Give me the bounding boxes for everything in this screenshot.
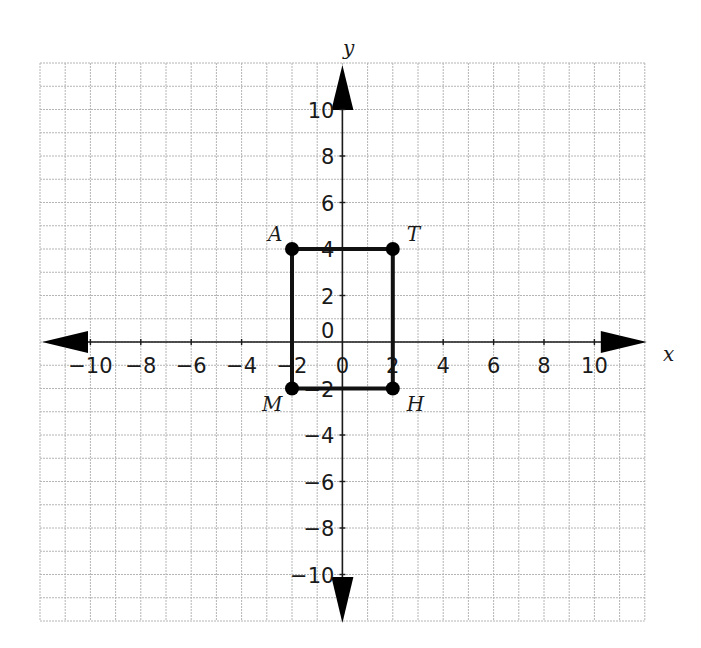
x-tick-label: 8 (537, 354, 550, 378)
y-tick-label: 6 (321, 192, 334, 216)
point-label-T: T (407, 222, 422, 246)
y-tick-label: 2 (321, 285, 334, 309)
x-tick-label: 10 (581, 354, 608, 378)
x-tick-label: −8 (125, 354, 156, 378)
point-label-M: M (261, 392, 283, 416)
x-tick-label: −6 (176, 354, 207, 378)
coordinate-plane: −10−8−6−4−202468101086420−2−4−6−8−10 x y… (0, 0, 701, 648)
y-tick-label: 0 (321, 319, 334, 343)
y-axis-label: y (342, 36, 355, 60)
axes (42, 65, 647, 623)
point-H (386, 382, 400, 396)
point-T (386, 242, 400, 256)
tick-labels: −10−8−6−4−202468101086420−2−4−6−8−10 (68, 99, 608, 588)
x-axis-right-arrow-icon (601, 331, 647, 353)
x-tick-label: −10 (68, 354, 112, 378)
x-tick-label: 4 (437, 354, 450, 378)
point-label-A: A (266, 222, 282, 246)
y-tick-label: −4 (303, 424, 334, 448)
y-tick-label: −10 (290, 564, 334, 588)
point-label-H: H (406, 392, 425, 416)
y-tick-label: 10 (308, 99, 335, 123)
x-tick-label: 6 (487, 354, 500, 378)
y-axis-down-arrow-icon (331, 577, 353, 623)
x-axis-label: x (663, 342, 674, 366)
point-A (285, 242, 299, 256)
y-tick-label: 8 (321, 145, 334, 169)
y-axis-up-arrow-icon (331, 65, 353, 110)
x-tick-label: 0 (336, 354, 349, 378)
y-tick-label: −6 (303, 471, 334, 495)
x-tick-label: −4 (226, 354, 257, 378)
point-M (285, 382, 299, 396)
y-tick-label: −8 (303, 517, 334, 541)
